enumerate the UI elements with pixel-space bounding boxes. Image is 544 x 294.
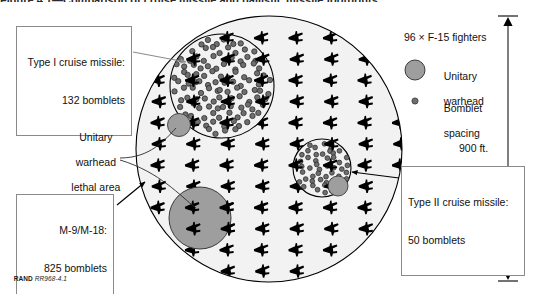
bomblet-dot xyxy=(178,98,183,103)
bomblet-dot xyxy=(320,152,325,157)
bomblet-dot xyxy=(318,177,323,182)
type-2-callout-line-1: Type II cruise missile: xyxy=(408,196,518,209)
bomblet-dot xyxy=(213,80,218,85)
bomblet-dot xyxy=(213,131,218,136)
unitary-label-line-3: lethal area xyxy=(71,181,120,193)
bomblet-dot xyxy=(250,107,255,112)
type-2-callout-line-2: 50 bomblets xyxy=(408,234,518,247)
bomblet-dot xyxy=(202,115,207,120)
bomblet-dot xyxy=(339,167,344,172)
bomblet-dot xyxy=(215,106,220,111)
type-2-callout[interactable]: Type II cruise missile: 50 bomblets xyxy=(401,166,525,276)
bomblet-dot xyxy=(201,58,206,63)
bomblet-dot xyxy=(222,128,227,133)
bomblet-dot xyxy=(172,89,177,94)
bomblet-dot xyxy=(198,90,203,95)
bomblet-dot xyxy=(252,87,257,92)
bomblet-dot xyxy=(245,119,250,124)
bomblet-dot xyxy=(310,174,315,179)
bomblet-dot xyxy=(221,61,226,66)
bomblet-dot xyxy=(238,41,243,46)
small-dot-icon xyxy=(412,98,418,104)
bomblet-dot xyxy=(239,105,244,110)
bomblet-dot xyxy=(233,69,238,74)
bomblet-dot xyxy=(242,89,247,94)
legend-item-bomblet-spacing-line-2: spacing xyxy=(444,127,480,139)
bomblet-dot xyxy=(324,174,329,179)
legend-item-unitary-warhead-line-1: Unitary xyxy=(444,70,477,82)
bomblet-dot xyxy=(245,102,250,107)
bomblet-dot xyxy=(177,104,182,109)
type-2-unitary-warhead-lethal-area xyxy=(328,176,348,196)
bomblet-dot xyxy=(306,155,311,160)
bomblet-dot xyxy=(257,88,262,93)
bomblet-dot xyxy=(314,152,319,157)
bomblet-dot xyxy=(203,45,208,50)
bomblet-dot xyxy=(337,148,342,153)
credit-number: RR968-4.1 xyxy=(35,275,67,282)
bomblet-dot xyxy=(297,180,302,185)
bomblet-dot xyxy=(316,171,321,176)
bomblet-dot xyxy=(202,96,207,101)
bomblet-dot xyxy=(210,68,215,73)
bomblet-dot xyxy=(252,49,257,54)
bomblet-dot xyxy=(256,110,261,115)
bomblet-dot xyxy=(211,53,216,58)
bomblet-dot xyxy=(225,89,230,94)
bomblet-dot xyxy=(344,170,349,175)
bomblet-dot xyxy=(231,41,236,46)
bomblet-dot xyxy=(337,160,342,165)
bomblet-dot xyxy=(325,156,330,161)
bomblet-dot xyxy=(254,71,259,76)
bomblet-dot xyxy=(197,105,202,110)
bomblet-dot xyxy=(220,104,225,109)
bomblet-dot xyxy=(250,113,255,118)
bomblet-dot xyxy=(307,166,312,171)
bomblet-dot xyxy=(216,115,221,120)
credit-prefix: RAND xyxy=(14,275,33,282)
bomblet-dot xyxy=(306,148,311,153)
bomblet-dot xyxy=(303,177,308,182)
gray-circle-icon xyxy=(405,60,425,80)
legend-symbols xyxy=(405,60,425,104)
unitary-warhead-lethal-area-label: Unitary warhead lethal area xyxy=(58,118,122,206)
bomblet-dot xyxy=(233,127,238,132)
bomblet-dot xyxy=(206,126,211,131)
unitary-label-line-1: Unitary xyxy=(79,131,112,143)
bomblet-dot xyxy=(300,170,305,175)
bomblet-dot xyxy=(308,143,313,148)
type-1-callout-line-1: Type I cruise missile: xyxy=(23,56,125,69)
m9-m18-unitary-lethal-area xyxy=(169,187,231,249)
bomblet-dot xyxy=(242,75,247,80)
bomblet-dot xyxy=(240,62,245,67)
bomblet-dot xyxy=(225,45,230,50)
bomblet-dot xyxy=(241,110,246,115)
bomblet-dot xyxy=(211,110,216,115)
rand-credit-line: RAND RR968-4.1 xyxy=(6,268,67,289)
bomblet-dot xyxy=(310,183,315,188)
bomblet-dot xyxy=(205,64,210,69)
bomblet-dot xyxy=(181,85,186,90)
bomblet-dot xyxy=(217,50,222,55)
bomblet-dot xyxy=(301,184,306,189)
bomblet-dot xyxy=(176,78,181,83)
bomblet-dot xyxy=(211,99,216,104)
bomblet-dot xyxy=(323,190,328,195)
main-dispersal-circle xyxy=(136,16,402,282)
legend-title: 96 × F-15 fighters xyxy=(404,31,487,43)
bomblet-dot xyxy=(217,95,222,100)
bomblet-dot xyxy=(315,187,320,192)
bomblet-dot xyxy=(181,64,186,69)
bomblet-dot xyxy=(185,72,190,77)
unitary-label-line-2: warhead xyxy=(76,156,116,168)
figure-root: Figure 4.1—Comparison of cruise missile … xyxy=(0,0,544,294)
bomblet-dot xyxy=(237,94,242,99)
bomblet-dot xyxy=(206,86,211,91)
m9-m18-callout-line-1: M-9/M-18: xyxy=(23,224,107,237)
bomblet-dot xyxy=(227,110,232,115)
bomblet-dot xyxy=(313,145,318,150)
bomblet-dot xyxy=(210,44,215,49)
legend-item-bomblet-spacing-line-1: Bomblet xyxy=(444,102,483,114)
bomblet-dot xyxy=(205,37,210,42)
bomblet-dot xyxy=(345,163,350,168)
